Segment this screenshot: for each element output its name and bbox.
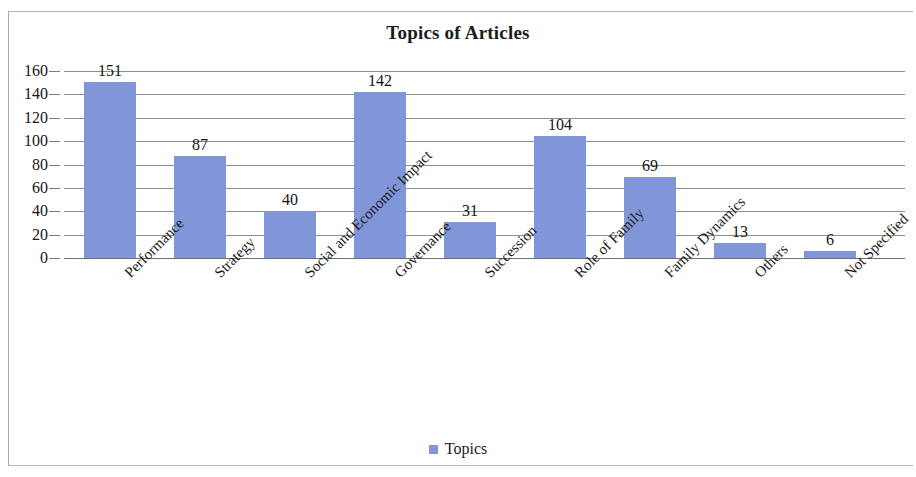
y-axis-tick-label: 40 <box>4 203 48 219</box>
chart-screenshot: Topics of Articles 020406080100120140160… <box>0 0 916 477</box>
bar <box>84 82 136 258</box>
y-axis-tick-label: 160 <box>4 63 48 79</box>
y-axis-tick-label: 80 <box>4 157 48 173</box>
y-axis-tick <box>49 71 60 72</box>
legend-label-topics: Topics <box>445 441 487 457</box>
y-axis-tick-label: 140 <box>4 86 48 102</box>
y-axis-tick-label: 20 <box>4 227 48 243</box>
y-axis-tick <box>49 235 60 236</box>
y-axis-tick <box>49 118 60 119</box>
y-axis-tick-label: 100 <box>4 133 48 149</box>
bar-value-label: 104 <box>515 117 605 133</box>
bar <box>714 243 766 258</box>
y-axis-tick <box>49 94 60 95</box>
y-axis-tick <box>49 258 60 259</box>
y-axis-tick <box>49 165 60 166</box>
gridline <box>64 118 905 119</box>
bar-value-label: 69 <box>605 158 695 174</box>
y-axis-tick-label: 0 <box>4 250 48 266</box>
bar-value-label: 40 <box>245 192 335 208</box>
bar-value-label: 87 <box>155 137 245 153</box>
y-axis-tick <box>49 188 60 189</box>
bar-value-label: 31 <box>425 203 515 219</box>
bar <box>804 251 856 258</box>
bar <box>174 156 226 258</box>
gridline <box>64 71 905 72</box>
chart-title: Topics of Articles <box>0 22 916 44</box>
y-axis-tick <box>49 211 60 212</box>
gridline <box>64 94 905 95</box>
bar <box>534 136 586 258</box>
y-axis-tick <box>49 141 60 142</box>
bar-value-label: 6 <box>785 232 875 248</box>
chart-legend: Topics <box>0 441 916 457</box>
bar-value-label: 151 <box>65 63 155 79</box>
legend-swatch-topics-icon <box>429 445 438 454</box>
bar <box>264 211 316 258</box>
bar-value-label: 142 <box>335 73 425 89</box>
y-axis-tick-label: 60 <box>4 180 48 196</box>
y-axis-tick-label: 120 <box>4 110 48 126</box>
